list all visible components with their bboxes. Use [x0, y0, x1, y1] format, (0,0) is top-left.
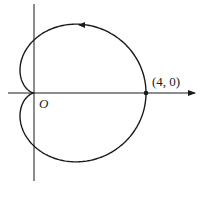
- origin-label: O: [39, 96, 49, 111]
- direction-arrow-icon: [78, 22, 85, 28]
- cardioid-diagram: O (4, 0): [0, 0, 203, 202]
- point-4-0: [144, 91, 149, 96]
- point-label: (4, 0): [152, 74, 180, 89]
